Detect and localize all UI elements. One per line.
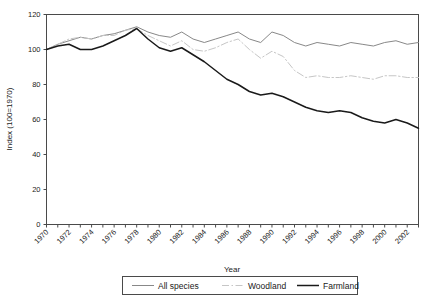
- y-tick-label: 40: [32, 150, 40, 159]
- y-axis-title: Index (100=1970): [5, 87, 14, 150]
- y-tick-label: 100: [28, 45, 41, 54]
- bird-population-index-line-chart: 020406080100120 197019721974197619781980…: [0, 0, 438, 298]
- legend: All speciesWoodlandFarmland: [123, 277, 360, 295]
- y-tick-label: 60: [32, 115, 40, 124]
- x-axis-title: Year: [224, 265, 241, 274]
- y-tick-label: 120: [28, 10, 41, 19]
- y-tick-label: 80: [32, 80, 40, 89]
- y-tick-label: 20: [32, 185, 40, 194]
- legend-label: Farmland: [323, 281, 359, 291]
- legend-label: Woodland: [248, 281, 286, 291]
- y-tick-label: 0: [36, 220, 40, 229]
- legend-label: All species: [158, 281, 199, 291]
